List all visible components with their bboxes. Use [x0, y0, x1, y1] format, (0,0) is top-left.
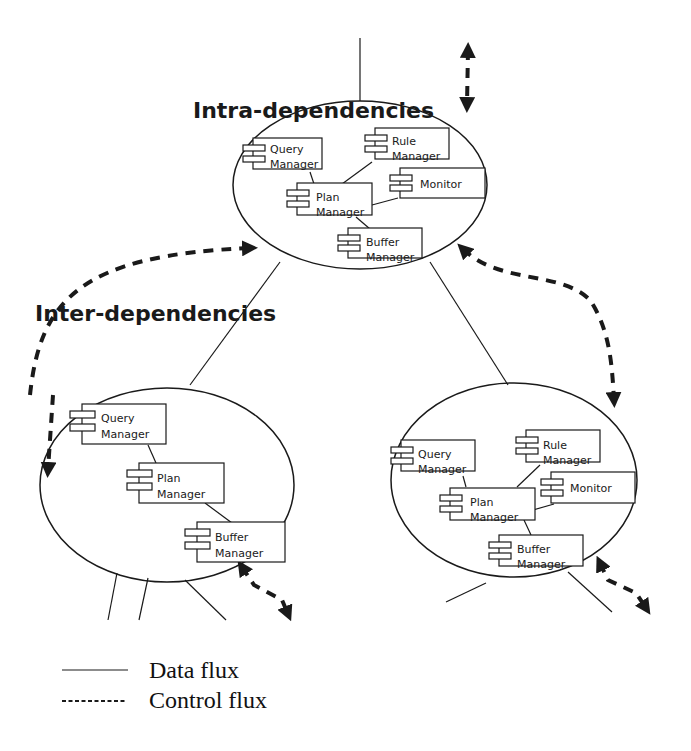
inter-dependencies-label: Inter-dependencies	[35, 301, 276, 326]
svg-text:Monitor: Monitor	[570, 482, 612, 495]
component-icon	[391, 447, 413, 453]
svg-text:Manager: Manager	[316, 206, 365, 219]
component-icon	[541, 479, 563, 485]
component-icon	[489, 542, 511, 548]
left-plan-manager: Plan Manager	[127, 463, 224, 503]
architecture-diagram: Intra-dependencies Inter-dependencies Qu…	[0, 0, 691, 751]
svg-text:Rule: Rule	[392, 135, 416, 148]
control-flux-arrows	[30, 50, 646, 614]
component-icon	[127, 470, 152, 477]
top-plan-manager: Plan Manager	[287, 183, 372, 219]
svg-text:Manager: Manager	[101, 428, 150, 441]
left-buffer-manager: Buffer Manager	[185, 522, 285, 562]
svg-text:Manager: Manager	[157, 488, 206, 501]
svg-text:Query: Query	[270, 143, 304, 156]
svg-text:Manager: Manager	[418, 463, 467, 476]
svg-text:Plan: Plan	[470, 496, 493, 509]
svg-text:Rule: Rule	[543, 439, 567, 452]
component-icon	[243, 145, 265, 151]
component-icon	[365, 135, 387, 141]
svg-text:Plan: Plan	[316, 191, 339, 204]
svg-text:Manager: Manager	[215, 547, 264, 560]
svg-text:Query: Query	[101, 412, 135, 425]
component-icon	[516, 437, 538, 443]
intra-dependencies-label: Intra-dependencies	[193, 98, 434, 123]
svg-text:Plan: Plan	[157, 472, 180, 485]
svg-text:Manager: Manager	[470, 511, 519, 524]
svg-text:Monitor: Monitor	[420, 178, 462, 191]
svg-text:Manager: Manager	[366, 251, 415, 264]
svg-text:Manager: Manager	[270, 158, 319, 171]
svg-text:Query: Query	[418, 448, 452, 461]
component-icon	[440, 495, 462, 501]
right-buffer-manager: Buffer Manager	[489, 535, 583, 571]
component-icon	[70, 411, 95, 418]
top-query-manager: Query Manager	[243, 138, 322, 171]
data-flux-lines	[108, 38, 612, 620]
top-monitor: Monitor	[390, 168, 485, 198]
legend: Data flux Control flux	[62, 657, 267, 713]
top-rule-manager: Rule Manager	[365, 128, 449, 163]
component-icon	[390, 175, 412, 181]
right-monitor: Monitor	[541, 472, 635, 503]
legend-control-flux-label: Control flux	[149, 687, 267, 713]
component-icon	[287, 190, 309, 196]
svg-text:Manager: Manager	[543, 454, 592, 467]
legend-data-flux-label: Data flux	[149, 657, 239, 683]
svg-text:Buffer: Buffer	[517, 543, 551, 556]
component-icon	[338, 235, 360, 241]
left-query-manager: Query Manager	[70, 404, 166, 444]
svg-text:Manager: Manager	[517, 558, 566, 571]
top-buffer-manager: Buffer Manager	[338, 228, 422, 264]
right-rule-manager: Rule Manager	[516, 430, 600, 467]
right-plan-manager: Plan Manager	[440, 488, 535, 524]
right-query-manager: Query Manager	[391, 440, 475, 476]
svg-text:Manager: Manager	[392, 150, 441, 163]
component-icon	[185, 529, 210, 536]
svg-text:Buffer: Buffer	[366, 236, 400, 249]
svg-text:Buffer: Buffer	[215, 531, 249, 544]
